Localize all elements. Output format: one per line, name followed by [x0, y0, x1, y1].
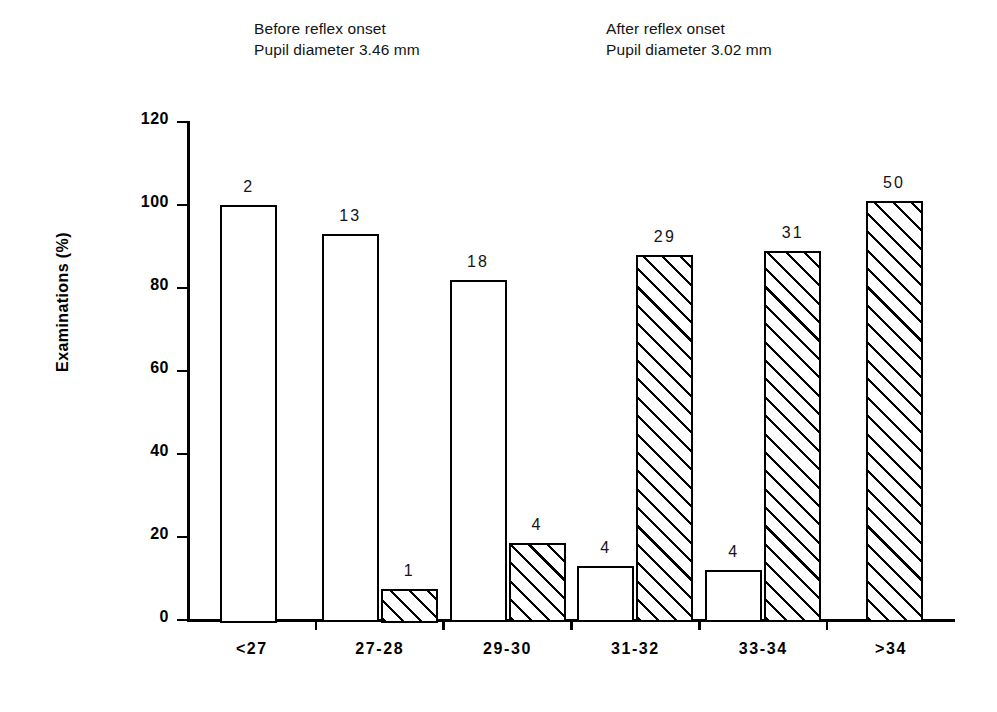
- y-tick-label-wrap: 80: [119, 287, 177, 290]
- bar-33-34-after: [764, 251, 821, 623]
- bar-33-34-before: [705, 570, 762, 622]
- x-tick: [570, 619, 573, 630]
- x-tick: [315, 619, 318, 630]
- x-tick-label-27-28: 27-28: [310, 640, 450, 658]
- x-tick-label-29-30: 29-30: [438, 640, 578, 658]
- y-tick-label: 100: [121, 193, 169, 211]
- y-tick-label: 0: [121, 608, 169, 626]
- y-tick-label: 60: [121, 359, 169, 377]
- y-tick-label: 120: [121, 110, 169, 128]
- header-before-reflex-onset: Before reflex onset Pupil diameter 3.46 …: [254, 18, 420, 60]
- bar-value-label: 4: [497, 516, 577, 534]
- bar-value-label: 29: [625, 228, 705, 246]
- header-after-reflex-onset: After reflex onset Pupil diameter 3.02 m…: [606, 18, 772, 60]
- bar-value-label: 1: [369, 562, 449, 580]
- bar-value-label: 50: [854, 174, 934, 192]
- y-tick-40: [177, 453, 188, 456]
- y-tick-label: 80: [121, 276, 169, 294]
- bar-31-32-after: [636, 255, 693, 623]
- y-axis-title: Examinations (%): [54, 192, 72, 412]
- bar-29-30-before: [450, 280, 507, 623]
- x-tick-label-33-34: 33-34: [693, 640, 833, 658]
- x-tick-label->34: >34: [821, 640, 961, 658]
- y-tick-label-wrap: 60: [119, 370, 177, 373]
- y-tick-label-wrap: 100: [119, 204, 177, 207]
- x-tick: [442, 619, 445, 630]
- bar-31-32-before: [577, 566, 634, 622]
- bar-29-30-after: [509, 543, 566, 622]
- y-tick-label-wrap: 40: [119, 453, 177, 456]
- bar-value-label: 18: [438, 253, 518, 271]
- bar-value-label: 4: [566, 539, 646, 557]
- y-tick-label: 40: [121, 442, 169, 460]
- header-before-line1: Before reflex onset: [254, 18, 420, 39]
- y-tick-60: [177, 370, 188, 373]
- y-tick-20: [177, 536, 188, 539]
- x-tick: [826, 619, 829, 630]
- x-tick: [698, 619, 701, 630]
- bar-value-label: 4: [694, 543, 774, 561]
- y-tick-80: [177, 287, 188, 290]
- bar-value-label: 31: [753, 224, 833, 242]
- y-tick-100: [177, 204, 188, 207]
- header-after-line1: After reflex onset: [606, 18, 772, 39]
- y-tick-label-wrap: 0: [119, 619, 177, 622]
- header-before-line2: Pupil diameter 3.46 mm: [254, 39, 420, 60]
- bar-value-label: 13: [310, 207, 390, 225]
- bar->34-after: [866, 201, 923, 623]
- x-tick-label-<27: <27: [182, 640, 322, 658]
- y-tick-label-wrap: 20: [119, 536, 177, 539]
- bar-27-28-after: [381, 589, 438, 623]
- y-tick-120: [177, 121, 188, 124]
- y-tick-label: 20: [121, 525, 169, 543]
- y-tick-label-wrap: 120: [119, 121, 177, 124]
- chart-canvas: Before reflex onset Pupil diameter 3.46 …: [0, 0, 997, 712]
- bar-value-label: 2: [209, 178, 289, 196]
- bar-<27-before: [220, 205, 277, 623]
- x-tick-label-31-32: 31-32: [565, 640, 705, 658]
- y-tick-0: [177, 619, 188, 622]
- header-after-line2: Pupil diameter 3.02 mm: [606, 39, 772, 60]
